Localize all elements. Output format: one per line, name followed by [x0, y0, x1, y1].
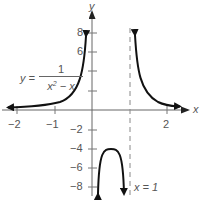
x-tick-label-2: 2 [163, 119, 169, 130]
equation-fraction: 1 x2 − x [39, 64, 83, 92]
y-tick-label-6: 6 [77, 46, 83, 57]
den-rest: − x [57, 80, 75, 92]
y-tick-label-8: 8 [77, 27, 83, 38]
y-tick-label-m4: −4 [70, 143, 83, 154]
x-tick-label-m1: −1 [46, 119, 59, 130]
fraction-bar [39, 76, 83, 77]
x-axis-label: x [193, 104, 199, 115]
plot-canvas [0, 0, 202, 202]
curve-middle-branch [98, 149, 124, 194]
graph-figure: y x 8 6 −2 −4 −6 −8 −2 −1 2 x = 1 y = 1 … [0, 0, 202, 202]
equation-lhs: y = [20, 72, 35, 84]
y-tick-label-m2: −2 [70, 124, 83, 135]
asymptote-label: x = 1 [134, 182, 158, 193]
y-axis-label: y [89, 1, 95, 12]
x-tick-label-m2: −2 [8, 119, 21, 130]
function-equation: y = 1 x2 − x [20, 64, 83, 92]
equation-numerator: 1 [58, 64, 64, 75]
equation-denominator: x2 − x [47, 78, 74, 92]
curve-right-branch [135, 35, 180, 107]
y-tick-label-m6: −6 [70, 162, 83, 173]
y-tick-label-m8: −8 [70, 181, 83, 192]
